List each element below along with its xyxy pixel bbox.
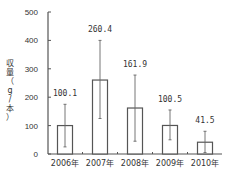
y-axis-label-char: （ (6, 77, 14, 86)
x-category-label: 2009年 (156, 158, 184, 168)
bar-group: 161.9 (123, 60, 147, 154)
y-axis-label-char: 収 (6, 58, 14, 68)
bar-group: 41.5 (195, 116, 214, 154)
y-axis-label-char: g (7, 86, 12, 95)
value-label: 161.9 (123, 60, 147, 69)
y-tick-label: 0 (34, 150, 39, 159)
bar-group: 260.4 (88, 25, 112, 154)
y-axis-label-char: / (9, 95, 12, 104)
y-axis: 0100200300400500 (25, 8, 51, 159)
x-category-label: 2010年 (191, 158, 219, 168)
x-category-label: 2008年 (121, 158, 149, 168)
x-category-label: 2007年 (86, 158, 114, 168)
y-tick-label: 500 (25, 8, 39, 17)
value-label: 260.4 (88, 25, 112, 34)
y-tick-label: 400 (25, 36, 39, 45)
y-axis-label: 収量（g/本） (6, 58, 14, 122)
value-label: 100.1 (53, 89, 77, 98)
y-axis-label-char: 本 (6, 103, 14, 113)
value-label: 100.5 (158, 95, 182, 104)
y-axis-label-char: 量 (6, 68, 14, 77)
y-tick-label: 300 (25, 65, 39, 74)
bar-group: 100.5 (158, 95, 182, 154)
y-tick-label: 100 (25, 122, 39, 131)
x-category-label: 2006年 (51, 158, 79, 168)
value-label: 41.5 (195, 116, 214, 125)
bars: 100.1260.4161.9100.541.5 (53, 25, 215, 154)
bar-group: 100.1 (53, 89, 77, 154)
y-tick-label: 200 (25, 93, 39, 102)
y-axis-label-char: ） (6, 113, 14, 122)
bar-chart: 収量（g/本） 0100200300400500 2006年2007年2008年… (0, 0, 229, 178)
